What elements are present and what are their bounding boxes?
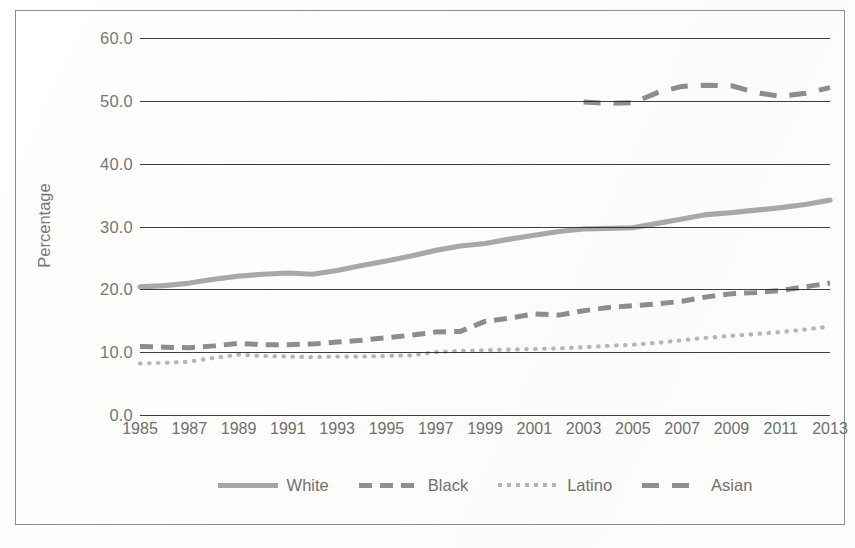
- y-axis-title-text: Percentage: [35, 183, 54, 267]
- long-dash-line-swatch: [642, 483, 702, 488]
- plot-area: [140, 38, 830, 415]
- x-axis-tick-labels: 1985198719891991199319951997199920012003…: [140, 420, 830, 446]
- gridline: [140, 227, 830, 228]
- gridline: [140, 164, 830, 165]
- y-axis-title: Percentage: [30, 115, 58, 335]
- x-axis-tick-label: 1997: [418, 420, 454, 438]
- gridline: [140, 352, 830, 353]
- legend-item-label: Latino: [567, 476, 612, 495]
- gridline: [140, 415, 830, 416]
- legend-item-black[interactable]: Black: [359, 476, 468, 495]
- x-axis-tick-label: 2005: [615, 420, 651, 438]
- x-axis-tick-label: 1989: [221, 420, 257, 438]
- dashed-line-swatch: [359, 483, 419, 488]
- legend-item-white[interactable]: White: [218, 476, 329, 495]
- gridline: [140, 38, 830, 39]
- x-axis-tick-label: 1985: [122, 420, 158, 438]
- series-layer: [140, 85, 830, 363]
- legend-item-label: Black: [428, 476, 468, 495]
- x-axis-tick-label: 2011: [764, 420, 798, 438]
- y-axis-tick-label: 50.0: [100, 91, 133, 110]
- x-axis-tick-label: 1993: [319, 420, 355, 438]
- y-axis-tick-label: 20.0: [100, 280, 133, 299]
- x-axis-tick-label: 1987: [171, 420, 207, 438]
- y-axis-tick-label: 40.0: [100, 154, 133, 173]
- solid-line-swatch: [218, 483, 278, 488]
- x-axis-tick-label: 1999: [467, 420, 503, 438]
- legend-item-label: White: [287, 476, 329, 495]
- series-line-white: [140, 200, 830, 287]
- y-axis-tick-label: 10.0: [100, 343, 133, 362]
- x-axis-tick-label: 2009: [714, 420, 750, 438]
- dotted-line-swatch: [498, 483, 558, 487]
- x-axis-tick-label: 1995: [369, 420, 405, 438]
- x-axis-tick-label: 2007: [664, 420, 700, 438]
- gridline: [140, 289, 830, 290]
- x-axis-tick-label: 2001: [516, 420, 552, 438]
- x-axis-tick-label: 2003: [566, 420, 602, 438]
- series-line-black: [140, 283, 830, 348]
- y-axis-tick-label: 30.0: [100, 217, 133, 236]
- chart-page: Percentage 0.010.020.030.040.050.060.0 1…: [0, 0, 855, 548]
- y-axis-tick-label: 60.0: [100, 29, 133, 48]
- legend-item-latino[interactable]: Latino: [498, 476, 612, 495]
- y-axis-tick-labels: 0.010.020.030.040.050.060.0: [55, 38, 133, 415]
- chart-legend: WhiteBlackLatinoAsian: [140, 470, 830, 500]
- legend-item-asian[interactable]: Asian: [642, 476, 752, 495]
- x-axis-tick-label: 1991: [270, 420, 306, 438]
- series-line-latino: [140, 326, 830, 363]
- legend-item-label: Asian: [711, 476, 752, 495]
- gridline: [140, 101, 830, 102]
- x-axis-tick-label: 2013: [812, 420, 848, 438]
